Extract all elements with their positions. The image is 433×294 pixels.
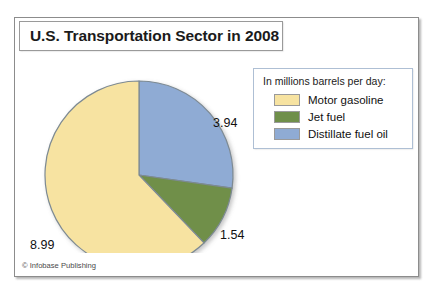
legend-label-motor-gasoline: Motor gasoline — [308, 94, 383, 106]
copyright-credit: © Infobase Publishing — [22, 261, 96, 270]
pie-chart: 3.94 1.54 8.99 — [20, 48, 265, 253]
data-label-motor-gasoline: 8.99 — [30, 238, 54, 252]
chart-title-box: U.S. Transportation Sector in 2008 — [19, 21, 283, 51]
chart-legend: In millions barrels per day: Motor gasol… — [253, 68, 413, 149]
legend-label-distillate-fuel-oil: Distillate fuel oil — [308, 128, 388, 140]
legend-title: In millions barrels per day: — [263, 75, 412, 87]
pie-slice-distillate-fuel-oil[interactable] — [139, 81, 233, 188]
legend-item-motor-gasoline[interactable]: Motor gasoline — [263, 91, 412, 108]
data-label-jet-fuel: 1.54 — [220, 228, 244, 242]
legend-item-distillate-fuel-oil[interactable]: Distillate fuel oil — [263, 125, 412, 142]
data-label-distillate-fuel-oil: 3.94 — [213, 116, 237, 130]
legend-item-jet-fuel[interactable]: Jet fuel — [263, 108, 412, 125]
pie-chart-svg — [20, 48, 265, 253]
legend-swatch-jet-fuel — [274, 111, 300, 123]
legend-label-jet-fuel: Jet fuel — [308, 111, 345, 123]
legend-swatch-distillate-fuel-oil — [274, 128, 300, 140]
pie-slices-group — [45, 81, 233, 253]
page-title: U.S. Transportation Sector in 2008 — [30, 27, 279, 45]
legend-swatch-motor-gasoline — [274, 94, 300, 106]
chart-figure: U.S. Transportation Sector in 2008 3.94 … — [14, 17, 419, 277]
